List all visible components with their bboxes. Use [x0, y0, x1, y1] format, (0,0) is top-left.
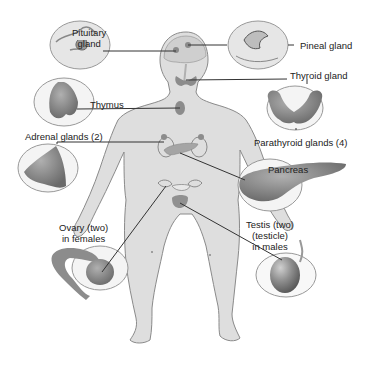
thymus-callout: [34, 78, 94, 126]
label-adrenal: Adrenal glands (2): [25, 131, 103, 142]
label-testis-line2: (testicle): [246, 230, 294, 241]
adrenal-organ-left: [161, 134, 167, 140]
ovary-callout: [51, 246, 128, 300]
label-pineal: Pineal gland: [300, 40, 352, 51]
label-ovary-line2: in females: [59, 233, 108, 244]
pineal-callout: [228, 21, 288, 69]
adrenal-organ-right: [198, 134, 204, 140]
label-pituitary-line1: Pituitary: [72, 27, 106, 38]
label-ovary: Ovary (two) in females: [59, 222, 108, 244]
label-testis: Testis (two) (testicle) in males: [246, 219, 294, 252]
label-thyroid: Thyroid gland: [290, 70, 348, 81]
label-pancreas: Pancreas: [268, 164, 308, 175]
label-parathyroid: Parathyroid glands (4): [254, 137, 347, 148]
label-ovary-line1: Ovary (two): [59, 222, 108, 233]
label-testis-line3: in males: [246, 241, 294, 252]
endocrine-diagram: Pituitary gland Pineal gland Thyroid gla…: [0, 0, 369, 373]
thyroid-callout: [267, 86, 323, 130]
label-testis-line1: Testis (two): [246, 219, 294, 230]
label-pituitary-line2: gland: [72, 38, 106, 49]
label-thymus: Thymus: [90, 99, 124, 110]
adrenal-callout: [18, 144, 78, 192]
pituitary-organ: [173, 47, 179, 53]
label-pituitary: Pituitary gland: [72, 27, 106, 49]
